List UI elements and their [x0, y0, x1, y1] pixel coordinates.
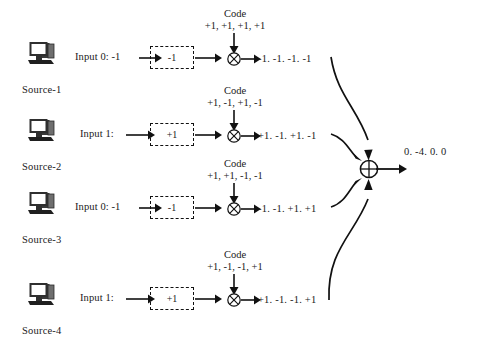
final-output-value: 0. -4. 0. 0: [404, 146, 446, 157]
converging-connectors: [0, 0, 480, 349]
cdma-diagram-canvas: Source-1 Input 0: -1 -1 Code +1, +1, +1,…: [0, 0, 480, 349]
arrow-summer-to-final-output: [376, 163, 408, 175]
